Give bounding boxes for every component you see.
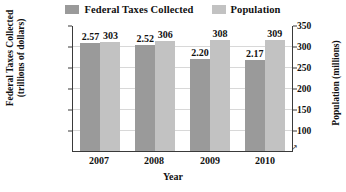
right-tick-150: 150 bbox=[297, 105, 337, 115]
left-axis-title-line1: Federal Taxes Collected bbox=[5, 0, 16, 122]
right-tick-250: 250 bbox=[297, 63, 337, 73]
bar-value-population-2010: 309 bbox=[267, 28, 282, 39]
right-tickmark-200 bbox=[293, 89, 297, 90]
bar-value-federal-taxes-2008: 2.52 bbox=[136, 33, 154, 44]
bar-value-population-2007: 303 bbox=[103, 30, 118, 41]
x-tick-2007: 2007 bbox=[69, 155, 129, 166]
right-tick-300: 300 bbox=[297, 42, 337, 52]
left-axis-title: Federal Taxes Collected (trillions of do… bbox=[0, 22, 30, 152]
right-tick-200: 200 bbox=[297, 84, 337, 94]
bar-group-2007: 2.57 303 bbox=[80, 26, 120, 151]
bar-population-2010[interactable]: 309 bbox=[265, 40, 285, 151]
bar-groups: 2.57 303 2.52 306 2.20 308 bbox=[73, 26, 292, 151]
legend-swatch-federal-taxes bbox=[65, 5, 79, 14]
bar-population-2009[interactable]: 308 bbox=[210, 40, 230, 151]
bar-value-federal-taxes-2007: 2.57 bbox=[82, 31, 100, 42]
legend-item-federal-taxes: Federal Taxes Collected bbox=[65, 4, 193, 15]
axis-break-arrow-icon: ↗ bbox=[291, 143, 298, 152]
legend-item-population: Population bbox=[212, 4, 281, 15]
bar-federal-taxes-2007[interactable]: 2.57 bbox=[80, 43, 100, 151]
right-tickmark-100 bbox=[293, 131, 297, 132]
x-tick-2008: 2008 bbox=[124, 155, 184, 166]
right-tickmark-250 bbox=[293, 68, 297, 69]
chart-legend: Federal Taxes Collected Population bbox=[0, 4, 346, 15]
bar-group-2010: 2.17 309 bbox=[245, 26, 285, 151]
bar-group-2008: 2.52 306 bbox=[135, 26, 175, 151]
x-tick-2010: 2010 bbox=[235, 155, 295, 166]
legend-swatch-population bbox=[212, 5, 226, 14]
bar-federal-taxes-2010[interactable]: 2.17 bbox=[245, 60, 265, 151]
right-tickmark-150 bbox=[293, 110, 297, 111]
x-tick-2009: 2009 bbox=[180, 155, 240, 166]
bar-value-federal-taxes-2009: 2.20 bbox=[191, 47, 209, 58]
bar-value-population-2008: 306 bbox=[158, 29, 173, 40]
legend-label-population: Population bbox=[231, 4, 281, 15]
bar-federal-taxes-2008[interactable]: 2.52 bbox=[135, 45, 155, 151]
bar-value-federal-taxes-2010: 2.17 bbox=[246, 48, 264, 59]
right-tickmark-350 bbox=[293, 26, 297, 27]
bar-group-2009: 2.20 308 bbox=[190, 26, 230, 151]
bar-value-population-2009: 308 bbox=[212, 28, 227, 39]
bar-population-2007[interactable]: 303 bbox=[100, 42, 120, 151]
bar-federal-taxes-2009[interactable]: 2.20 bbox=[190, 59, 210, 151]
legend-label-federal-taxes: Federal Taxes Collected bbox=[84, 4, 193, 15]
bar-population-2008[interactable]: 306 bbox=[155, 41, 175, 151]
plot-area: 2.57 303 2.52 306 2.20 308 bbox=[72, 26, 293, 152]
x-axis-title: Year bbox=[0, 171, 346, 182]
chart-container: Federal Taxes Collected Population Feder… bbox=[0, 0, 346, 192]
right-tick-100: 100 bbox=[297, 126, 337, 136]
left-axis-title-line2: (trillions of dollars) bbox=[16, 0, 27, 122]
right-tickmark-300 bbox=[293, 47, 297, 48]
right-tick-350: 350 bbox=[297, 21, 337, 31]
